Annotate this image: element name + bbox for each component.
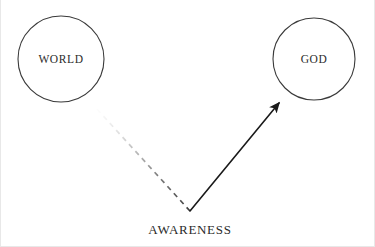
node-god[interactable]: GOD — [273, 18, 355, 100]
world-label: WORLD — [38, 53, 83, 65]
diagram-canvas: WORLD GOD AWARENESS — [0, 0, 375, 247]
god-label: GOD — [301, 53, 328, 65]
node-world[interactable]: WORLD — [18, 16, 104, 102]
dashed-edge-world — [96, 108, 190, 211]
solid-arrow-god — [190, 103, 279, 211]
awareness-label: AWARENESS — [148, 222, 231, 237]
diagram-svg: WORLD GOD AWARENESS — [0, 0, 375, 247]
